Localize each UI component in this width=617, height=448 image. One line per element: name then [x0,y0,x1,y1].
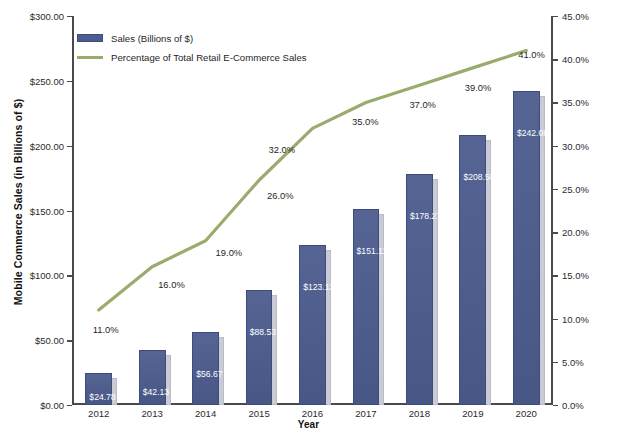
line-data-label: 19.0% [216,247,243,258]
x-axis-tick-label: 2020 [516,408,537,419]
y-axis-right-tick [553,319,558,320]
x-axis-tick-label: 2015 [248,408,269,419]
x-axis-tick-label: 2012 [88,408,109,419]
y-axis-right-tick [553,146,558,147]
y-axis-right-tick-label: 35.0% [562,97,589,108]
x-axis-tick-label: 2017 [355,408,376,419]
y-axis-right-tick-label: 20.0% [562,227,589,238]
legend-label-sales: Sales (Billions of $) [111,33,193,44]
x-axis-tick-label: 2019 [462,408,483,419]
y-axis-left-tick-label: $50.00 [35,335,64,346]
legend-bar-swatch-icon [77,34,103,42]
y-axis-right-tick-label: 30.0% [562,140,589,151]
y-axis-right-tick [553,102,558,103]
line-data-label: 39.0% [465,82,492,93]
legend-line-swatch-icon [77,56,103,59]
x-axis-tick-label: 2014 [195,408,216,419]
chart-container: Mobile Commerce Sales (in Billions of $)… [0,0,617,448]
y-axis-right-tick [553,275,558,276]
y-axis-right-tick [553,59,558,60]
y-axis-right-tick-label: 0.0% [562,400,584,411]
x-axis-tick-label: 2013 [141,408,162,419]
y-axis-left-tick [67,405,72,406]
line-data-label: 37.0% [409,99,436,110]
y-axis-right-tick [553,189,558,190]
line-data-label: 32.0% [269,144,296,155]
y-axis-right-tick-label: 45.0% [562,11,589,22]
chart-legend: Sales (Billions of $) Percentage of Tota… [77,30,307,68]
line-data-label: 26.0% [267,190,294,201]
y-axis-left-tick-label: $150.00 [30,205,64,216]
legend-item-percentage: Percentage of Total Retail E-Commerce Sa… [77,49,307,65]
x-axis-tick-label: 2016 [302,408,323,419]
y-axis-right-tick [553,232,558,233]
plot-area: $0.00$50.00$100.00$150.00$200.00$250.00$… [72,16,553,405]
y-axis-right-tick [553,362,558,363]
line-data-label: 35.0% [352,116,379,127]
line-data-label: 11.0% [93,324,119,335]
y-axis-right-tick [553,405,558,406]
y-axis-right-tick-label: 25.0% [562,183,589,194]
y-axis-left-title: Mobile Commerce Sales (in Billions of $) [12,72,24,332]
y-axis-left-tick-label: $100.00 [30,270,64,281]
line-data-label: 41.0% [518,49,545,60]
line-series [72,16,553,405]
x-axis-title: Year [0,419,617,430]
y-axis-left-tick-label: $300.00 [30,11,64,22]
y-axis-right-tick-label: 15.0% [562,270,589,281]
x-axis-tick-label: 2018 [409,408,430,419]
legend-label-percentage: Percentage of Total Retail E-Commerce Sa… [111,52,307,63]
line-data-label: 16.0% [158,279,185,290]
y-axis-right-tick [553,16,558,17]
y-axis-right-tick-label: 5.0% [562,356,584,367]
y-axis-right-tick-label: 40.0% [562,54,589,65]
y-axis-left-tick-label: $200.00 [30,140,64,151]
y-axis-left-tick-label: $250.00 [30,75,64,86]
y-axis-right-tick-label: 10.0% [562,313,589,324]
y-axis-left-tick-label: $0.00 [40,400,64,411]
legend-item-sales: Sales (Billions of $) [77,30,307,46]
